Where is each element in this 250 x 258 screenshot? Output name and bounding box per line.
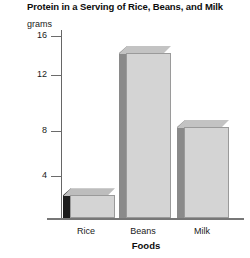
bar-front-face: [70, 195, 115, 218]
y-tick-label: 8: [24, 126, 47, 135]
y-tick-mark: [51, 36, 62, 37]
bar-chart: Protein in a Serving of Rice, Beans, and…: [0, 0, 250, 258]
bar-beans[interactable]: [119, 46, 171, 218]
x-tick-label-rice: Rice: [60, 226, 112, 237]
y-tick-label: 12: [24, 70, 47, 79]
y-tick-mark: [51, 176, 62, 177]
bar-front-face: [184, 127, 229, 218]
bar-rice[interactable]: [63, 188, 115, 218]
y-axis-unit-label: grams: [27, 19, 52, 29]
x-axis-line: [47, 218, 244, 220]
y-tick-label: 16: [24, 31, 47, 40]
y-tick-mark: [51, 75, 62, 76]
x-tick-label-milk: Milk: [176, 226, 228, 237]
x-axis-title: Foods: [62, 240, 230, 251]
x-tick-label-beans: Beans: [117, 226, 169, 237]
y-tick-label: 4: [24, 171, 47, 180]
bar-milk[interactable]: [177, 120, 229, 218]
plot-area: [62, 30, 230, 218]
y-tick-mark: [51, 131, 62, 132]
chart-title: Protein in a Serving of Rice, Beans, and…: [0, 1, 250, 13]
bar-front-face: [126, 53, 171, 218]
